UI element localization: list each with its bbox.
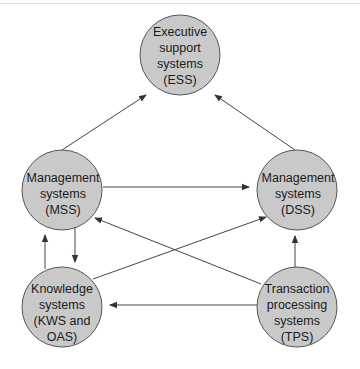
node-dss-line-3: (DSS) [281,203,315,217]
edge-dss-to-ess [215,95,295,150]
node-tps-line-2: processing [267,298,327,312]
node-tps-line-1: Transaction [265,282,330,296]
edge-kws-to-dss [93,217,266,279]
node-ess-line-3: systems [157,57,203,71]
edge-mss-to-ess [62,95,146,150]
node-dss: Management systems (DSS) [257,150,337,230]
node-ess-line-4: (ESS) [163,73,196,87]
node-mss-line-1: Management [27,171,100,185]
node-tps: Transaction processing systems (TPS) [257,267,337,347]
node-mss: Management systems (MSS) [22,150,102,230]
node-kws-line-4: OAS) [47,330,78,344]
node-kws-line-3: (KWS and [34,314,91,328]
node-kws-line-2: systems [39,298,85,312]
node-ess: Executive support systems (ESS) [140,15,220,95]
node-dss-line-1: Management [262,171,335,185]
node-tps-line-3: systems [274,314,320,328]
node-ess-line-2: support [159,41,201,55]
node-kws-line-1: Knowledge [31,282,93,296]
node-dss-line-2: systems [275,187,321,201]
node-tps-line-4: (TPS) [281,330,314,344]
node-mss-line-2: systems [40,187,86,201]
node-mss-line-3: (MSS) [45,203,80,217]
node-ess-line-1: Executive [153,25,207,39]
node-kws: Knowledge systems (KWS and OAS) [22,267,102,347]
diagram-canvas: Executive support systems (ESS) Manageme… [0,0,360,369]
